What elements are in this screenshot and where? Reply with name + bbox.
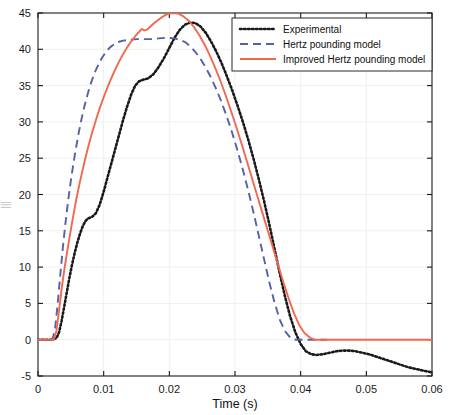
y-tick-label: 30 xyxy=(19,116,31,128)
y-axis-label-faint: ||| xyxy=(0,201,11,209)
y-tick-label: 15 xyxy=(19,225,31,237)
chart-figure: 00.010.020.030.040.050.06 -5051015202530… xyxy=(0,0,456,415)
legend[interactable]: ExperimentalHertz pounding modelImproved… xyxy=(232,18,432,71)
x-tick-label: 0 xyxy=(35,383,41,395)
x-tick-label: 0.04 xyxy=(290,383,311,395)
plot-canvas: 00.010.020.030.040.050.06 -5051015202530… xyxy=(0,0,456,415)
x-tick-label: 0.01 xyxy=(93,383,114,395)
legend-label-2[interactable]: Improved Hertz pounding model xyxy=(283,54,425,65)
legend-label-1[interactable]: Hertz pounding model xyxy=(283,39,381,50)
x-tick-label: 0.02 xyxy=(159,383,180,395)
y-tick-label: 35 xyxy=(19,80,31,92)
y-tick-label: 10 xyxy=(19,261,31,273)
y-tick-label: 20 xyxy=(19,189,31,201)
y-tick-label: 0 xyxy=(25,334,31,346)
y-tick-label: 25 xyxy=(19,152,31,164)
x-tick-label: 0.03 xyxy=(224,383,245,395)
x-tick-label: 0.05 xyxy=(356,383,377,395)
legend-label-0[interactable]: Experimental xyxy=(283,24,341,35)
y-tick-label: -5 xyxy=(21,370,31,382)
y-tick-label: 5 xyxy=(25,297,31,309)
x-tick-label: 0.06 xyxy=(421,383,442,395)
y-tick-label: 45 xyxy=(19,7,31,19)
x-axis-title: Time (s) xyxy=(212,397,257,411)
y-axis-label-text: ||| xyxy=(0,201,11,209)
y-tick-label: 40 xyxy=(19,43,31,55)
